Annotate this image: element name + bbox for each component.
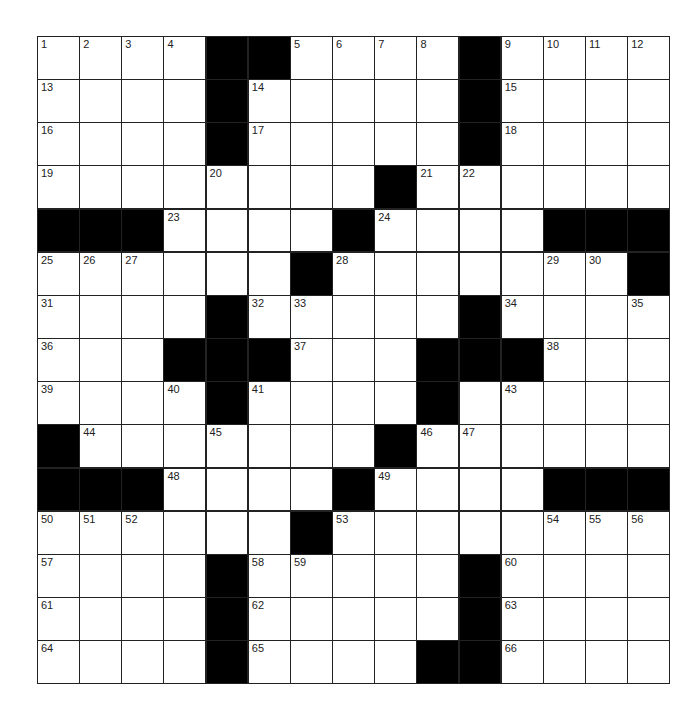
answer-cell[interactable]: 58 [249, 555, 290, 597]
answer-cell[interactable]: 34 [502, 296, 543, 338]
answer-cell[interactable] [249, 425, 290, 467]
answer-cell[interactable]: 2 [80, 37, 121, 79]
answer-cell[interactable] [628, 123, 669, 165]
answer-cell[interactable] [333, 425, 374, 467]
answer-cell[interactable] [249, 253, 290, 295]
answer-cell[interactable]: 5 [291, 37, 332, 79]
answer-cell[interactable]: 53 [333, 512, 374, 554]
answer-cell[interactable] [586, 80, 627, 122]
answer-cell[interactable] [586, 123, 627, 165]
answer-cell[interactable]: 32 [249, 296, 290, 338]
answer-cell[interactable]: 33 [291, 296, 332, 338]
answer-cell[interactable] [544, 296, 585, 338]
answer-cell[interactable] [122, 425, 163, 467]
answer-cell[interactable] [502, 469, 543, 511]
answer-cell[interactable]: 64 [38, 641, 79, 683]
answer-cell[interactable] [291, 123, 332, 165]
answer-cell[interactable]: 41 [249, 382, 290, 424]
answer-cell[interactable] [375, 296, 416, 338]
answer-cell[interactable] [122, 555, 163, 597]
answer-cell[interactable] [586, 641, 627, 683]
answer-cell[interactable]: 14 [249, 80, 290, 122]
answer-cell[interactable]: 30 [586, 253, 627, 295]
answer-cell[interactable] [333, 339, 374, 381]
answer-cell[interactable] [375, 598, 416, 640]
answer-cell[interactable]: 39 [38, 382, 79, 424]
answer-cell[interactable] [586, 425, 627, 467]
answer-cell[interactable] [628, 80, 669, 122]
answer-cell[interactable]: 65 [249, 641, 290, 683]
answer-cell[interactable] [333, 166, 374, 208]
answer-cell[interactable] [375, 123, 416, 165]
answer-cell[interactable] [122, 641, 163, 683]
answer-cell[interactable]: 12 [628, 37, 669, 79]
answer-cell[interactable] [628, 598, 669, 640]
answer-cell[interactable] [122, 80, 163, 122]
answer-cell[interactable] [164, 80, 205, 122]
answer-cell[interactable] [207, 512, 248, 554]
answer-cell[interactable]: 62 [249, 598, 290, 640]
answer-cell[interactable] [291, 166, 332, 208]
answer-cell[interactable] [333, 296, 374, 338]
answer-cell[interactable] [80, 382, 121, 424]
answer-cell[interactable]: 52 [122, 512, 163, 554]
answer-cell[interactable] [122, 166, 163, 208]
answer-cell[interactable] [544, 382, 585, 424]
answer-cell[interactable] [80, 598, 121, 640]
answer-cell[interactable] [249, 210, 290, 252]
answer-cell[interactable] [291, 210, 332, 252]
answer-cell[interactable] [333, 123, 374, 165]
answer-cell[interactable]: 26 [80, 253, 121, 295]
answer-cell[interactable]: 13 [38, 80, 79, 122]
answer-cell[interactable]: 21 [417, 166, 458, 208]
answer-cell[interactable]: 38 [544, 339, 585, 381]
answer-cell[interactable] [164, 296, 205, 338]
answer-cell[interactable] [291, 425, 332, 467]
answer-cell[interactable] [333, 80, 374, 122]
answer-cell[interactable] [417, 210, 458, 252]
answer-cell[interactable]: 46 [417, 425, 458, 467]
answer-cell[interactable]: 56 [628, 512, 669, 554]
answer-cell[interactable] [628, 425, 669, 467]
answer-cell[interactable]: 48 [164, 469, 205, 511]
answer-cell[interactable] [291, 641, 332, 683]
answer-cell[interactable] [375, 512, 416, 554]
answer-cell[interactable]: 55 [586, 512, 627, 554]
answer-cell[interactable]: 11 [586, 37, 627, 79]
answer-cell[interactable]: 66 [502, 641, 543, 683]
answer-cell[interactable] [164, 166, 205, 208]
answer-cell[interactable] [375, 339, 416, 381]
answer-cell[interactable] [164, 123, 205, 165]
answer-cell[interactable] [122, 123, 163, 165]
answer-cell[interactable] [460, 512, 501, 554]
answer-cell[interactable] [249, 166, 290, 208]
answer-cell[interactable] [122, 339, 163, 381]
answer-cell[interactable] [502, 253, 543, 295]
answer-cell[interactable] [544, 555, 585, 597]
answer-cell[interactable] [417, 296, 458, 338]
answer-cell[interactable]: 16 [38, 123, 79, 165]
answer-cell[interactable]: 19 [38, 166, 79, 208]
answer-cell[interactable] [207, 253, 248, 295]
answer-cell[interactable]: 3 [122, 37, 163, 79]
answer-cell[interactable]: 20 [207, 166, 248, 208]
answer-cell[interactable] [249, 469, 290, 511]
answer-cell[interactable] [417, 253, 458, 295]
answer-cell[interactable] [628, 166, 669, 208]
answer-cell[interactable]: 29 [544, 253, 585, 295]
answer-cell[interactable]: 50 [38, 512, 79, 554]
answer-cell[interactable] [628, 641, 669, 683]
answer-cell[interactable] [544, 123, 585, 165]
answer-cell[interactable] [502, 166, 543, 208]
answer-cell[interactable] [291, 469, 332, 511]
answer-cell[interactable] [122, 382, 163, 424]
answer-cell[interactable]: 7 [375, 37, 416, 79]
answer-cell[interactable] [628, 339, 669, 381]
answer-cell[interactable]: 10 [544, 37, 585, 79]
answer-cell[interactable] [586, 598, 627, 640]
answer-cell[interactable] [80, 166, 121, 208]
answer-cell[interactable]: 44 [80, 425, 121, 467]
answer-cell[interactable]: 27 [122, 253, 163, 295]
answer-cell[interactable] [375, 80, 416, 122]
answer-cell[interactable] [375, 555, 416, 597]
